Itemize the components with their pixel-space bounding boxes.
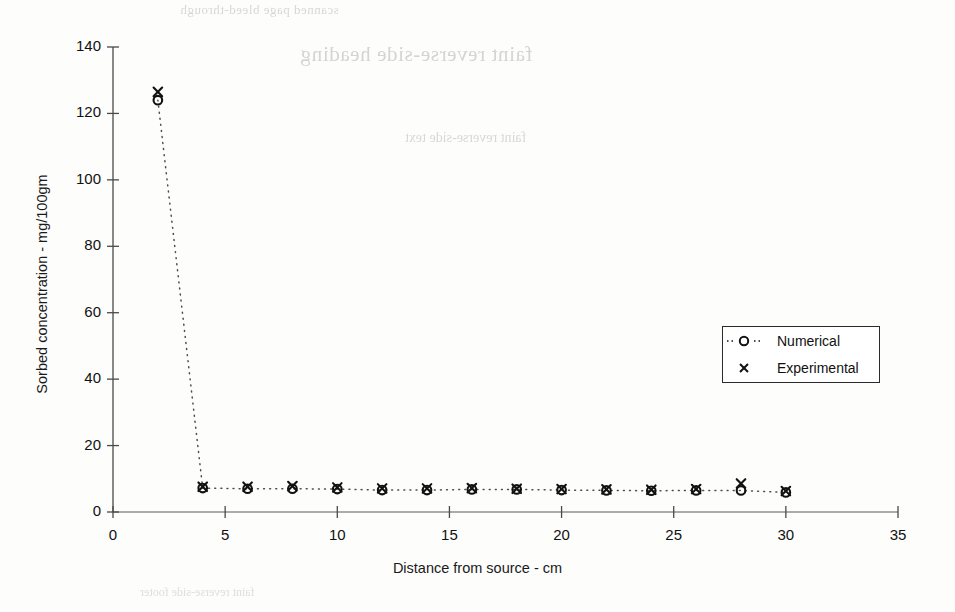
chart-legend: Numerical Experimental	[722, 326, 880, 383]
legend-label-numerical: Numerical	[777, 333, 840, 349]
legend-entry-experimental: Experimental	[723, 354, 879, 382]
legend-label-experimental: Experimental	[777, 360, 859, 376]
y-tick-label: 40	[55, 369, 101, 386]
series-experimental	[154, 88, 791, 496]
x-tick-label: 20	[542, 526, 582, 543]
series-line-numerical	[158, 100, 786, 492]
circle-open-icon	[723, 327, 777, 355]
x-tick-label: 25	[654, 526, 694, 543]
plot-area	[0, 0, 955, 612]
axes-layer	[107, 47, 898, 518]
y-tick-label: 20	[55, 436, 101, 453]
y-axis-title: Sorbed concentration - mg/100gm	[34, 74, 50, 494]
y-tick-label: 80	[55, 236, 101, 253]
scanned-page: scanned page bleed-through faint reverse…	[0, 0, 955, 612]
legend-entry-numerical: Numerical	[723, 327, 879, 355]
data-series-layer	[154, 88, 791, 497]
x-tick-label: 10	[317, 526, 357, 543]
y-tick-label: 60	[55, 303, 101, 320]
x-tick-label: 30	[766, 526, 806, 543]
x-axis-title: Distance from source - cm	[0, 560, 955, 576]
x-tick-label: 35	[878, 526, 918, 543]
x-tick-label: 5	[205, 526, 245, 543]
series-numerical	[154, 96, 791, 497]
x-tick-label: 15	[429, 526, 469, 543]
y-tick-label: 140	[55, 37, 101, 54]
y-tick-label: 120	[55, 103, 101, 120]
scatter-chart: 020406080100120140 05101520253035 Sorbed…	[0, 0, 955, 612]
y-tick-label: 0	[55, 502, 101, 519]
cross-x-icon	[723, 354, 777, 382]
x-tick-label: 0	[93, 526, 133, 543]
y-tick-label: 100	[55, 170, 101, 187]
